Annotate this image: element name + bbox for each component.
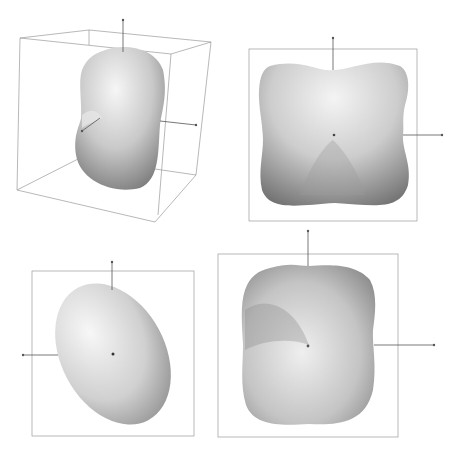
panel-top-view [218,230,435,437]
figure-canvas [0,0,456,453]
panel-side-view [22,261,194,445]
panel-perspective-view [17,19,211,222]
panel-front-view [249,37,443,221]
